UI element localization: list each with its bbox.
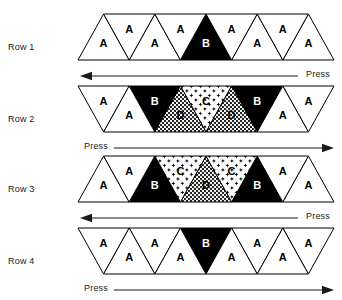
triangle-glyph: B [202,37,210,49]
triangle-glyph: A [151,37,159,49]
press-arrow-row-4 [0,282,342,298]
triangle-glyph: A [304,95,312,107]
press-label-row-3: Press [306,211,330,221]
triangle-glyph: B [151,95,159,107]
triangle-glyph: A [151,237,159,249]
triangle-band-row-3: ABDBAACCA [0,154,342,204]
triangle-glyph: A [100,37,108,49]
diagram-canvas: Row 1AABAAAAAAPressRow 2ABCBAADDAPressRo… [0,0,342,300]
arrow-head [322,286,334,294]
triangle-glyph: A [304,37,312,49]
triangle-band-row-1: AABAAAAAA [0,12,342,62]
triangle-glyph: A [125,165,133,177]
triangle-glyph: D [228,109,236,121]
press-label-row-1: Press [306,69,330,79]
triangle-glyph: A [100,179,108,191]
triangle-glyph: A [279,251,287,263]
triangle-glyph: A [304,237,312,249]
arrow-head [80,214,92,222]
triangle-glyph: C [176,165,184,177]
triangle-glyph: C [202,95,210,107]
press-label-row-2: Press [84,141,108,151]
triangle-glyph: A [100,95,108,107]
triangle-glyph: A [125,23,133,35]
triangle-band-row-2: ABCBAADDA [0,84,342,134]
press-arrow-row-1 [0,68,342,84]
triangle-glyph: A [253,37,261,49]
triangle-glyph: A [228,23,236,35]
triangle-glyph: A [279,165,287,177]
triangle-glyph: A [176,251,184,263]
triangle-glyph: A [100,237,108,249]
triangle-glyph: A [253,237,261,249]
triangle-band-row-4: AABAAAAAA [0,226,342,276]
triangle-glyph: B [151,179,159,191]
triangle-glyph: B [253,95,261,107]
triangle-glyph: D [176,109,184,121]
triangle-glyph: A [228,251,236,263]
triangle-glyph: A [125,251,133,263]
triangle-glyph: A [279,23,287,35]
arrow-head [322,144,334,152]
triangle-glyph: D [202,179,210,191]
triangle-glyph: C [228,165,236,177]
triangle-glyph: A [279,109,287,121]
triangle-glyph: A [125,109,133,121]
triangle-glyph: B [202,237,210,249]
arrow-head [80,72,92,80]
press-arrow-row-3 [0,210,342,226]
press-label-row-4: Press [84,283,108,293]
triangle-glyph: B [253,179,261,191]
triangle-glyph: A [176,23,184,35]
triangle-glyph: A [304,179,312,191]
